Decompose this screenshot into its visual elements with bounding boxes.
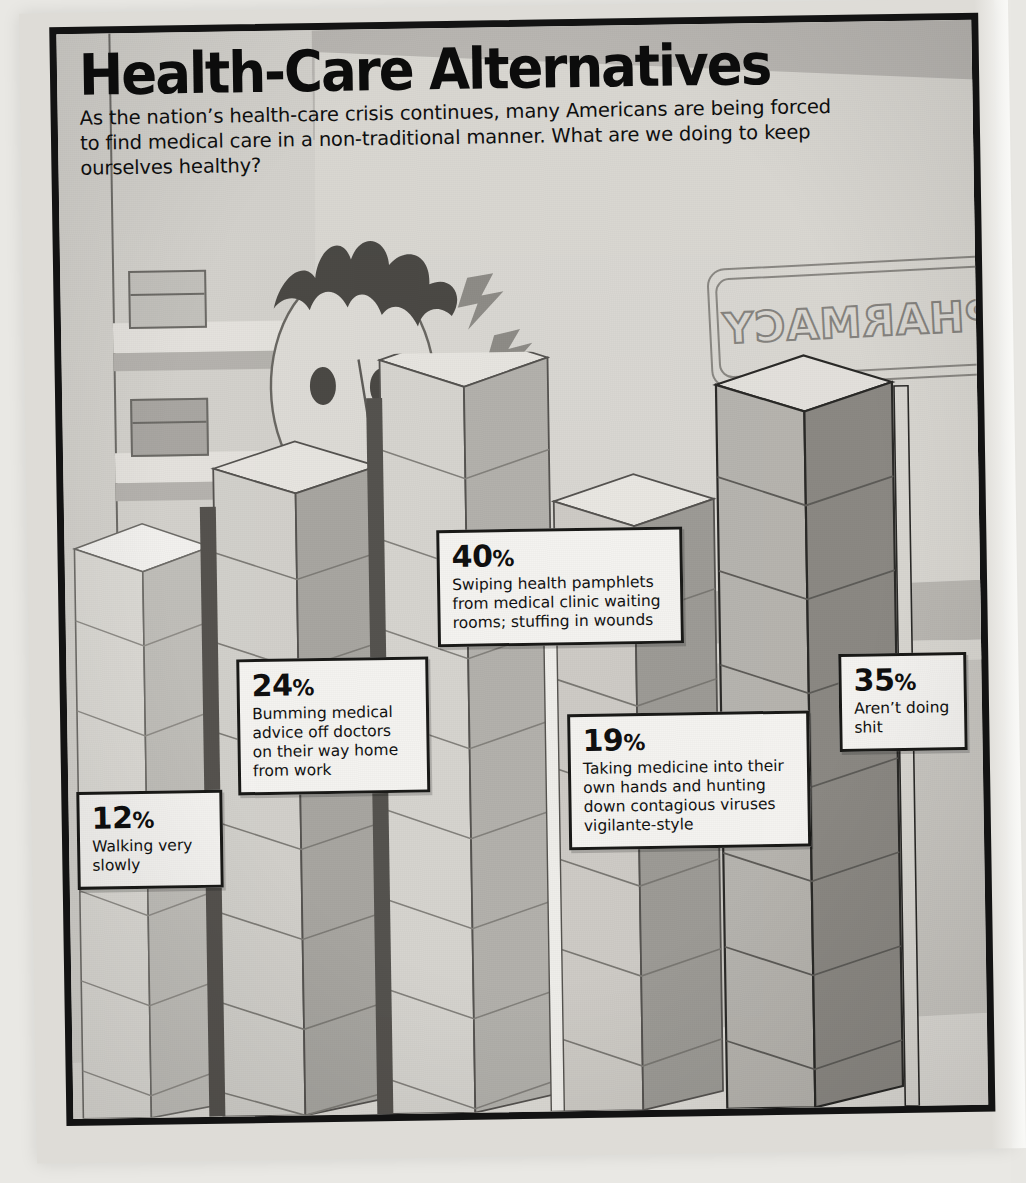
callout-35[interactable]: 35% Aren’t doing shit xyxy=(838,652,968,752)
callout-35-percent: 35% xyxy=(853,664,951,696)
infographic-frame: PHARMACY xyxy=(49,13,995,1126)
callout-24-percent: 24% xyxy=(251,669,413,702)
callout-35-text: Aren’t doing shit xyxy=(854,698,953,737)
paper-sheet: PHARMACY xyxy=(19,0,1012,1164)
callout-12[interactable]: 12% Walking very slowly xyxy=(76,790,224,890)
page-title: Health-Care Alternatives xyxy=(79,35,898,104)
page-subtitle: As the nation’s health-care crisis conti… xyxy=(79,95,840,182)
callout-24-text: Bumming medical advice off doctors on th… xyxy=(252,703,415,781)
callout-12-percent: 12% xyxy=(91,802,207,834)
callout-19-text: Taking medicine into their own hands and… xyxy=(583,757,796,836)
callout-19-percent: 19% xyxy=(582,723,794,756)
callout-12-text: Walking very slowly xyxy=(92,836,209,876)
callout-19[interactable]: 19% Taking medicine into their own hands… xyxy=(567,710,811,849)
headline-block: Health-Care Alternatives As the nation’s… xyxy=(79,34,961,182)
callout-40-text: Swiping health pamphlets from medical cl… xyxy=(452,573,669,633)
callout-24[interactable]: 24% Bumming medical advice off doctors o… xyxy=(236,656,430,795)
callout-40[interactable]: 40% Swiping health pamphlets from medica… xyxy=(436,526,684,647)
headache-bolt-1 xyxy=(457,273,504,330)
callout-40-percent: 40% xyxy=(451,539,667,572)
